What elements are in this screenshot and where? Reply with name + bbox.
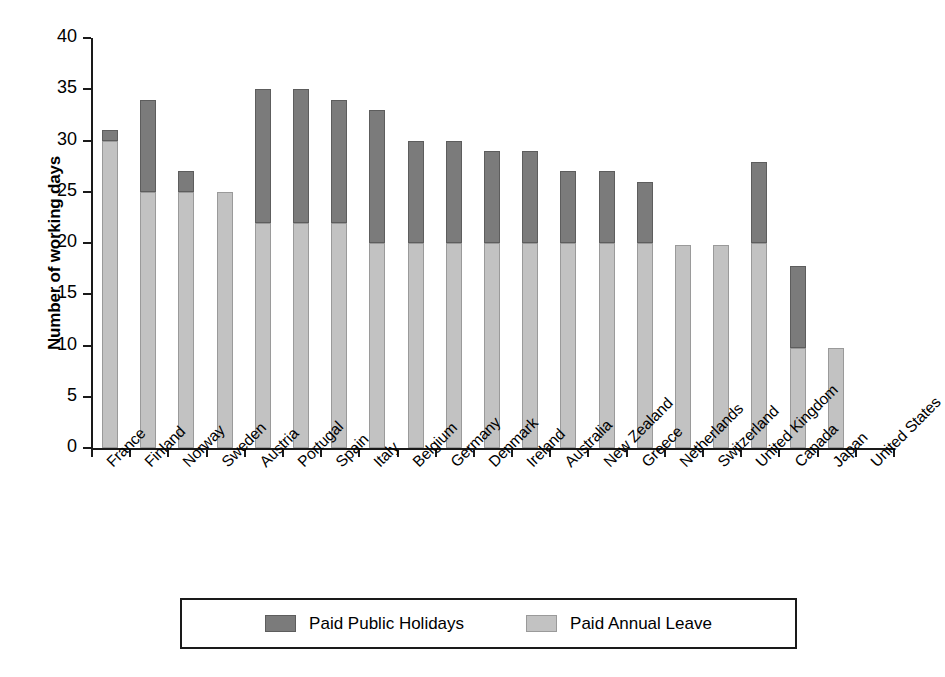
y-axis-tick: 40: [83, 37, 91, 39]
y-axis-tick-label: 10: [37, 334, 77, 355]
bar: [293, 89, 309, 448]
bar: [369, 110, 385, 448]
legend-label: Paid Public Holidays: [309, 614, 464, 634]
bar: [599, 171, 615, 448]
bar: [675, 245, 691, 448]
bar-segment-paid-annual-leave: [293, 223, 309, 449]
legend-item: Paid Annual Leave: [526, 614, 712, 634]
y-axis-tick-label: 35: [37, 77, 77, 98]
chart-legend: Paid Public HolidaysPaid Annual Leave: [180, 598, 797, 649]
bar-segment-paid-public-holidays: [446, 141, 462, 244]
bar-segment-paid-public-holidays: [484, 151, 500, 243]
bar: [331, 100, 347, 449]
y-axis-tick-label: 15: [37, 282, 77, 303]
y-axis-tick: 25: [83, 191, 91, 193]
legend-swatch-icon: [526, 615, 557, 632]
bar-segment-paid-public-holidays: [331, 100, 347, 223]
y-axis-line: [91, 38, 93, 448]
y-axis-tick-label: 20: [37, 231, 77, 252]
legend-item: Paid Public Holidays: [265, 614, 464, 634]
bar-segment-paid-public-holidays: [255, 89, 271, 222]
y-axis-tick: 20: [83, 242, 91, 244]
y-axis-tick: 15: [83, 293, 91, 295]
bar-segment-paid-public-holidays: [637, 182, 653, 244]
bar: [217, 192, 233, 448]
bar-segment-paid-annual-leave: [446, 243, 462, 448]
x-axis-labels: FranceFinlandNorwaySwedenAustriaPortugal…: [91, 458, 893, 598]
bar-segment-paid-public-holidays: [293, 89, 309, 222]
y-axis-tick: 0: [83, 447, 91, 449]
y-axis-tick-label: 25: [37, 180, 77, 201]
y-axis-tick-label: 40: [37, 26, 77, 47]
bar-segment-paid-public-holidays: [140, 100, 156, 192]
bar-segment-paid-annual-leave: [217, 192, 233, 448]
y-axis-tick: 35: [83, 88, 91, 90]
bar: [102, 130, 118, 448]
bar-segment-paid-annual-leave: [178, 192, 194, 448]
bar: [178, 171, 194, 448]
bar-segment-paid-public-holidays: [599, 171, 615, 243]
y-axis-tick-label: 5: [37, 385, 77, 406]
bar-segment-paid-annual-leave: [255, 223, 271, 449]
bar-segment-paid-public-holidays: [751, 162, 767, 243]
bar-segment-paid-public-holidays: [102, 130, 118, 140]
bar-segment-paid-public-holidays: [790, 266, 806, 348]
bar-segment-paid-public-holidays: [178, 171, 194, 192]
bar: [446, 141, 462, 449]
bar: [140, 100, 156, 449]
y-axis-tick: 5: [83, 396, 91, 398]
bar: [484, 151, 500, 448]
bar-segment-paid-public-holidays: [369, 110, 385, 243]
bar-segment-paid-annual-leave: [675, 245, 691, 448]
y-axis-tick: 30: [83, 140, 91, 142]
bar-segment-paid-public-holidays: [522, 151, 538, 243]
bar-segment-paid-annual-leave: [102, 141, 118, 449]
bar-segment-paid-annual-leave: [408, 243, 424, 448]
bar-segment-paid-annual-leave: [331, 223, 347, 449]
y-axis-tick-label: 30: [37, 129, 77, 150]
legend-swatch-icon: [265, 615, 296, 632]
bar-segment-paid-annual-leave: [369, 243, 385, 448]
y-axis-tick-label: 0: [37, 436, 77, 457]
legend-label: Paid Annual Leave: [570, 614, 712, 634]
bar: [560, 171, 576, 448]
y-axis-tick: 10: [83, 345, 91, 347]
plot-area: 0510152025303540: [91, 38, 893, 448]
bar-segment-paid-public-holidays: [560, 171, 576, 243]
bar: [522, 151, 538, 448]
bar-segment-paid-annual-leave: [140, 192, 156, 448]
bar: [408, 141, 424, 449]
bar-segment-paid-annual-leave: [560, 243, 576, 448]
bar-segment-paid-public-holidays: [408, 141, 424, 244]
x-axis-tick: [91, 448, 93, 457]
bar: [255, 89, 271, 448]
